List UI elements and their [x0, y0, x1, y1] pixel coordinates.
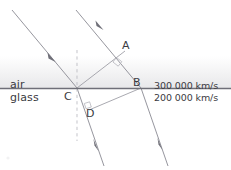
label-point-d: D: [86, 108, 94, 119]
arrowhead-incident-ray-2: [96, 21, 104, 31]
scan-artifact-mark: [6, 156, 9, 159]
label-speed-glass: 200 000 km/s: [154, 93, 218, 103]
label-air: air: [10, 79, 25, 90]
refracted-ray-1: [77, 88, 104, 166]
label-point-b: B: [133, 77, 141, 88]
wavefront-line-DB: [89, 88, 141, 110]
refraction-diagram: air glass 300 000 km/s 200 000 km/s A B …: [0, 0, 231, 170]
label-point-a: A: [122, 40, 130, 51]
label-glass: glass: [10, 92, 39, 103]
label-point-c: C: [64, 91, 72, 102]
label-speed-air: 300 000 km/s: [154, 81, 218, 91]
